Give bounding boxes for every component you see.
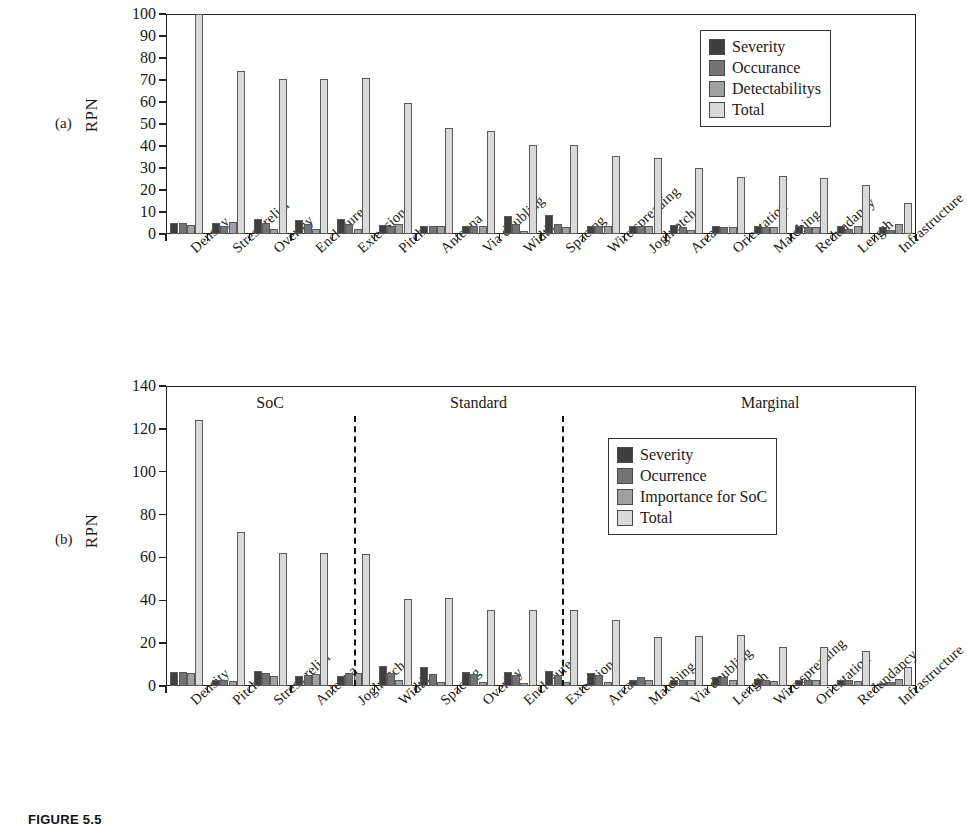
bar-ocurrence: [845, 680, 853, 686]
bar-detectabilitys: [437, 226, 445, 234]
bar-importance-for-soc: [437, 682, 445, 686]
bar-severity: [837, 680, 845, 686]
bar-severity: [212, 680, 220, 686]
bar-occurance: [595, 226, 603, 234]
bar-ocurrence: [470, 674, 478, 686]
legend-swatch-icon: [709, 39, 725, 55]
y-tick: [159, 557, 166, 558]
bar-occurance: [887, 230, 895, 234]
bar-total: [195, 14, 203, 234]
y-tick-label: 140: [132, 378, 156, 394]
y-tick: [159, 13, 166, 14]
bar-ocurrence: [762, 680, 770, 686]
bar-occurance: [804, 227, 812, 234]
section-divider: [562, 416, 564, 686]
section-label: Marginal: [741, 394, 799, 412]
bar-ocurrence: [345, 673, 353, 686]
legend-swatch-icon: [617, 510, 633, 526]
y-tick: [159, 145, 166, 146]
bar-severity: [337, 676, 345, 686]
bar-detectabilitys: [854, 226, 862, 234]
bar-severity: [254, 219, 262, 234]
bar-total: [612, 620, 620, 686]
bar-importance-for-soc: [854, 681, 862, 686]
bar-detectabilitys: [645, 226, 653, 234]
bar-detectabilitys: [354, 229, 362, 235]
bar-severity: [212, 223, 220, 234]
bar-importance-for-soc: [270, 676, 278, 686]
y-tick: [159, 79, 166, 80]
x-tick-label: Overlay: [479, 664, 526, 709]
bar-total: [195, 420, 203, 686]
legend-item: Ocurrence: [617, 465, 767, 486]
bar-detectabilitys: [229, 222, 237, 234]
bar-total: [862, 185, 870, 235]
bar-detectabilitys: [520, 231, 528, 234]
bar-severity: [462, 226, 470, 234]
legend-item: Detectabilitys: [709, 78, 821, 99]
chart-panel-a: (a) RPN 0102030405060708090100DensityStr…: [0, 0, 925, 370]
y-tick-label: 50: [140, 116, 156, 132]
bar-total: [612, 156, 620, 234]
bar-total: [487, 131, 495, 234]
bar-severity: [879, 227, 887, 234]
bar-detectabilitys: [729, 227, 737, 234]
bar-severity: [670, 680, 678, 686]
panel-b-plot-area: 020406080100120140DensityPitchStress rel…: [166, 386, 916, 686]
bar-total: [237, 532, 245, 686]
bar-severity: [420, 667, 428, 686]
bar-total: [695, 168, 703, 234]
bar-occurance: [262, 223, 270, 234]
y-tick: [159, 211, 166, 212]
bar-importance-for-soc: [604, 682, 612, 686]
x-tick-label: Density: [187, 665, 233, 709]
y-tick-label: 20: [140, 182, 156, 198]
bar-severity: [587, 673, 595, 686]
bar-ocurrence: [512, 675, 520, 686]
bar-detectabilitys: [770, 227, 778, 234]
bar-detectabilitys: [562, 227, 570, 234]
bar-detectabilitys: [187, 225, 195, 234]
bar-importance-for-soc: [812, 680, 820, 686]
bar-ocurrence: [637, 677, 645, 686]
bar-total: [404, 599, 412, 686]
bar-detectabilitys: [312, 229, 320, 235]
legend-item: Severity: [617, 444, 767, 465]
bar-severity: [754, 226, 762, 234]
y-tick-label: 40: [140, 592, 156, 608]
bar-occurance: [345, 224, 353, 234]
y-tick: [159, 101, 166, 102]
bar-importance-for-soc: [395, 680, 403, 686]
panel-b-axis-left: [166, 386, 167, 686]
bar-severity: [670, 225, 678, 234]
bar-total: [529, 145, 537, 234]
bar-detectabilitys: [604, 226, 612, 234]
bar-occurance: [762, 227, 770, 234]
bar-severity: [837, 226, 845, 234]
y-tick-label: 90: [140, 28, 156, 44]
bar-ocurrence: [179, 672, 187, 686]
bar-ocurrence: [387, 673, 395, 686]
bar-total: [737, 177, 745, 234]
x-tick-label: Density: [187, 213, 233, 257]
y-tick: [159, 189, 166, 190]
panel-a-legend: SeverityOccuranceDetectabilitysTotal: [700, 30, 831, 127]
bar-total: [820, 178, 828, 234]
x-tick-label: Spacing: [437, 664, 484, 709]
bar-total: [279, 79, 287, 234]
bar-occurance: [387, 226, 395, 234]
section-label: Standard: [450, 394, 507, 412]
legend-swatch-icon: [709, 102, 725, 118]
y-tick-label: 80: [140, 50, 156, 66]
bar-ocurrence: [554, 675, 562, 686]
bar-importance-for-soc: [687, 680, 695, 686]
bar-severity: [629, 680, 637, 686]
panel-a-axis-top: [166, 14, 916, 15]
bar-total: [237, 71, 245, 234]
bar-detectabilitys: [895, 224, 903, 234]
bar-severity: [337, 219, 345, 234]
bar-ocurrence: [887, 682, 895, 686]
legend-swatch-icon: [617, 447, 633, 463]
x-tick-label: Spacing: [562, 212, 609, 257]
